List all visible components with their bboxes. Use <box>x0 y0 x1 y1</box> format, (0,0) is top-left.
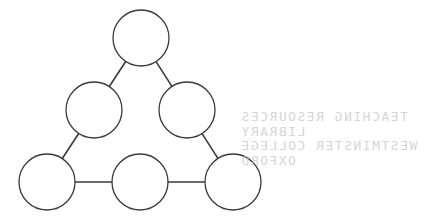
stamp-line-2: LIBRARY <box>240 125 424 140</box>
stamp-line-4: OXFORD <box>240 154 424 169</box>
connector-top-mid-right <box>156 62 172 87</box>
connector-top-mid-left <box>109 61 125 86</box>
circle-node-mid-right <box>159 82 215 138</box>
circle-node-bottom-left <box>19 154 75 210</box>
library-stamp-bleedthrough: TEACHING RESOURCES LIBRARY WESTMINSTER C… <box>240 110 424 168</box>
circle-node-bottom-middle <box>112 154 168 210</box>
circle-node-mid-left <box>66 82 122 138</box>
circle-node-top <box>113 10 169 66</box>
stamp-line-1: TEACHING RESOURCES <box>240 110 424 125</box>
stamp-line-3: WESTMINSTER COLLEGE <box>240 139 424 154</box>
connector-mid-right-bottom-right <box>202 134 218 159</box>
connector-mid-left-bottom-left <box>62 133 78 158</box>
diagram-nodes <box>19 10 261 210</box>
